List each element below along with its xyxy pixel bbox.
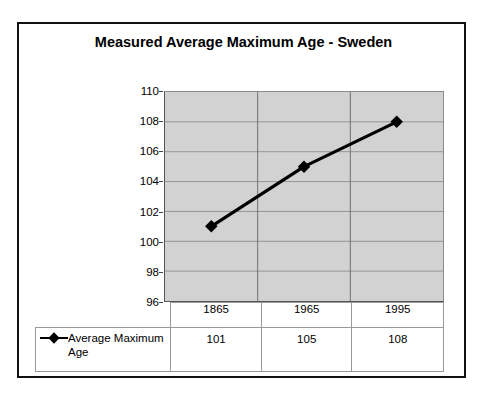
- table-row: Average Maximum Age 101 105 108: [36, 327, 444, 371]
- legend-diamond-icon: [48, 332, 59, 343]
- data-point-marker-1995: [390, 116, 403, 128]
- y-tick-label-102: 102: [119, 206, 159, 218]
- y-axis: 110 108 106 104 102 100 98 96: [114, 91, 159, 302]
- legend-cell: Average Maximum Age: [36, 327, 171, 371]
- horizontal-gridlines: [165, 122, 443, 271]
- plot-area: [164, 91, 444, 302]
- chart-data-table: 1865 1965 1995 Average Maximum Age: [35, 302, 444, 372]
- chart-frame: Measured Average Maximum Age - Sweden 11…: [17, 22, 466, 378]
- table-header-1965: 1965: [261, 303, 352, 328]
- table-corner-cell: [36, 303, 171, 328]
- y-tick-mark: [159, 151, 163, 152]
- y-tick-label-104: 104: [119, 175, 159, 187]
- vertical-gridlines: [258, 92, 351, 301]
- y-tick-mark: [159, 181, 163, 182]
- y-tick-mark: [159, 91, 163, 92]
- chart-screenshot: Measured Average Maximum Age - Sweden 11…: [0, 0, 485, 397]
- y-tick-mark: [159, 212, 163, 213]
- y-tick-label-98: 98: [119, 266, 159, 278]
- diamond-marker-icon: [40, 331, 68, 345]
- chart-title: Measured Average Maximum Age - Sweden: [19, 34, 468, 50]
- table-cell-1865: 101: [171, 327, 262, 371]
- y-tick-label-106: 106: [119, 145, 159, 157]
- series-line-average-maximum-age: [211, 122, 396, 226]
- y-tick-mark: [159, 121, 163, 122]
- table-header-1865: 1865: [171, 303, 262, 328]
- table-header-row: 1865 1965 1995: [36, 303, 444, 328]
- table-header-1995: 1995: [352, 303, 444, 328]
- y-tick-mark: [159, 242, 163, 243]
- y-tick-label-100: 100: [119, 236, 159, 248]
- table-cell-1965: 105: [261, 327, 352, 371]
- y-tick-label-110: 110: [119, 85, 159, 97]
- y-tick-mark: [159, 272, 163, 273]
- plot-svg: [165, 92, 443, 301]
- legend-series-label: Average Maximum Age: [68, 331, 166, 359]
- y-tick-label-108: 108: [119, 115, 159, 127]
- table-cell-1995: 108: [352, 327, 444, 371]
